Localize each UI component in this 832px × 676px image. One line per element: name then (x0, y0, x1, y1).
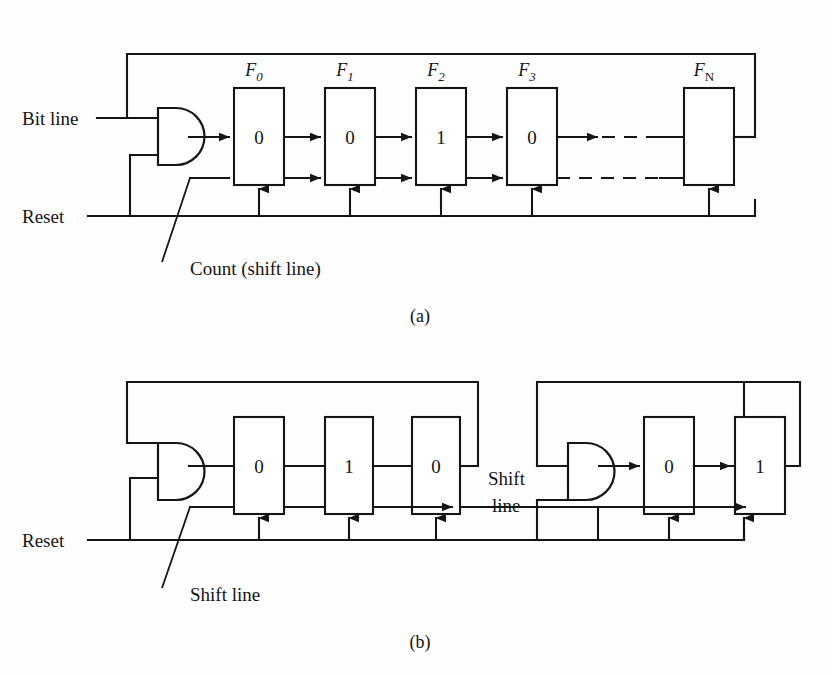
shift-mid-label-line1: Shift (488, 468, 526, 489)
flipflop-label-f1: F1 (335, 60, 354, 84)
cell-value-b-r1: 0 (664, 456, 674, 477)
cell-value-b-l1: 0 (254, 456, 264, 477)
panel-b: 0 1 0 (22, 382, 800, 653)
reset-riser-b-left (130, 478, 158, 540)
flipflop-value-f3: 0 (527, 127, 537, 148)
count-leader-line (162, 178, 190, 262)
and-gate-b-right (568, 443, 615, 500)
flipflop-box-fn (684, 88, 734, 185)
reset-label-a: Reset (22, 206, 65, 227)
cell-value-b-l3: 0 (431, 456, 441, 477)
cell-value-b-l2: 1 (344, 456, 354, 477)
flipflop-label-f3: F3 (517, 60, 536, 84)
and-gate-b-left (158, 443, 205, 500)
flipflop-value-f2: 1 (436, 127, 446, 148)
bit-line-label: Bit line (22, 108, 78, 129)
flipflop-label-f0: F0 (244, 60, 263, 84)
flipflop-label-fn: FN (693, 60, 715, 84)
flipflop-value-f0: 0 (254, 127, 264, 148)
flipflop-label-f2: F2 (426, 60, 445, 84)
shift-register-figure: 0 F0 0 F1 1 F2 0 F3 (0, 0, 832, 676)
figure-page: 0 F0 0 F1 1 F2 0 F3 (0, 0, 832, 676)
reset-label-b: Reset (22, 530, 65, 551)
count-annotation-label: Count (shift line) (190, 258, 321, 280)
shift-leader-line (162, 507, 190, 588)
caption-b: (b) (410, 632, 431, 653)
cell-value-b-r2: 1 (755, 456, 765, 477)
shift-annotation-label: Shift line (190, 584, 260, 605)
flipflop-value-f1: 0 (345, 127, 355, 148)
shift-mid-label-line2: line (492, 495, 521, 516)
caption-a: (a) (410, 306, 430, 327)
reset-riser-a (130, 155, 158, 216)
panel-a: 0 F0 0 F1 1 F2 0 F3 (22, 54, 755, 327)
